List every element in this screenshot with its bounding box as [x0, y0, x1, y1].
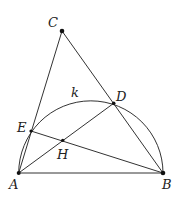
point-c — [60, 29, 65, 34]
point-label-a: A — [8, 177, 18, 192]
semicircle-k — [19, 101, 163, 173]
point-b — [161, 171, 166, 176]
point-label-c: C — [48, 15, 58, 30]
point-h — [61, 139, 64, 142]
point-e — [29, 129, 32, 132]
point-label-h: H — [56, 147, 69, 162]
arc-label-k: k — [71, 85, 79, 100]
segment-be — [31, 131, 163, 173]
point-a — [17, 171, 21, 175]
points — [17, 29, 166, 176]
point-label-b: B — [161, 177, 172, 192]
geometry-diagram: k A B C D E H — [0, 0, 183, 200]
segment-ac — [19, 31, 62, 173]
point-d — [112, 102, 116, 106]
point-label-d: D — [115, 89, 127, 104]
labels: k A B C D E H — [8, 15, 172, 192]
point-label-e: E — [16, 120, 27, 135]
segment-ad — [19, 103, 114, 173]
segments — [19, 31, 163, 173]
